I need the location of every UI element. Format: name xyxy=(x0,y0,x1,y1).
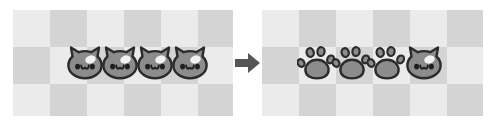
paw-print-icon xyxy=(332,43,372,83)
paw-print-icon xyxy=(297,43,337,83)
paw-sprite xyxy=(332,43,372,83)
paw-toe-2 xyxy=(376,48,385,58)
sprite-row-left xyxy=(13,10,233,116)
paw-sprite xyxy=(297,43,337,83)
paw-print-icon xyxy=(367,43,407,83)
cat-sprite xyxy=(135,43,175,83)
cat-sprite xyxy=(170,43,210,83)
transformation-scene xyxy=(0,0,496,126)
sprite-row-right xyxy=(262,10,483,116)
after-state-board xyxy=(262,10,483,116)
paw-toe-3 xyxy=(387,47,395,57)
cat-sprite xyxy=(100,43,140,83)
transformation-arrow xyxy=(235,52,261,74)
cat-sprite xyxy=(404,43,444,83)
cat-face-icon xyxy=(170,43,210,83)
cat-face-icon xyxy=(404,43,444,83)
cat-sprite xyxy=(65,43,105,83)
paw-toe-3 xyxy=(352,47,360,57)
paw-toe-3 xyxy=(317,47,325,57)
arrow-right-icon xyxy=(235,52,261,74)
cat-face-icon xyxy=(100,43,140,83)
paw-sprite xyxy=(367,43,407,83)
paw-toe-2 xyxy=(306,48,315,58)
before-state-board xyxy=(13,10,233,116)
cat-face-icon xyxy=(135,43,175,83)
cat-face-icon xyxy=(65,43,105,83)
paw-toe-1 xyxy=(297,58,306,68)
paw-toe-1 xyxy=(332,58,341,68)
paw-toe-2 xyxy=(341,48,350,58)
paw-toe-1 xyxy=(367,58,376,68)
